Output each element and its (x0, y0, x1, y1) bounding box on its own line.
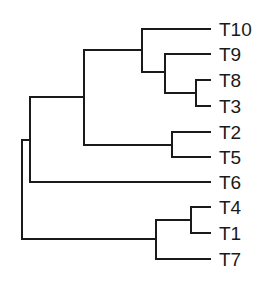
leaf-label-t9: T9 (219, 44, 241, 65)
node-b (22, 97, 30, 182)
node-t4-t1 (156, 207, 191, 233)
node-a (30, 50, 84, 145)
node-t2-t5 (84, 132, 172, 157)
leaf-label-t7: T7 (219, 249, 241, 270)
leaf-label-t8: T8 (219, 70, 241, 91)
leaf-label-t5: T5 (219, 147, 241, 168)
node-t8-t3 (165, 80, 196, 106)
leaf-label-t6: T6 (219, 172, 241, 193)
leaf-label-t4: T4 (219, 197, 242, 218)
leaf-label-t3: T3 (219, 96, 241, 117)
leaf-label-t10: T10 (219, 19, 252, 40)
leaf-label-t2: T2 (219, 122, 241, 143)
node-lower-clade (22, 220, 156, 259)
tree-edges (22, 29, 210, 259)
leaf-labels: T10 T9 T8 T3 T2 T5 T6 T4 T1 T7 (219, 19, 252, 270)
leaf-label-t1: T1 (219, 223, 241, 244)
dendrogram: T10 T9 T8 T3 T2 T5 T6 T4 T1 T7 (0, 0, 264, 283)
node-t10-clade (84, 29, 142, 72)
node-t9-clade (142, 54, 165, 93)
